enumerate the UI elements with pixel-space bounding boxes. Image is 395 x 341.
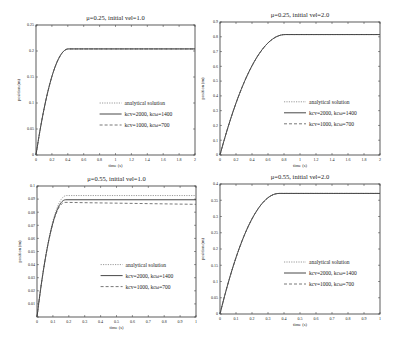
x-tick-label: 1.4 <box>145 157 150 162</box>
y-axis-label: position (m) <box>200 77 205 100</box>
legend-label: kcv=1000, kcω=700 <box>309 121 354 127</box>
series-line <box>220 193 380 314</box>
x-axis-label: time (s) <box>293 163 307 168</box>
x-tick-label: 0.7 <box>330 316 335 321</box>
x-tick-label: 0.2 <box>250 316 255 321</box>
legend-label: analytical solution <box>309 259 350 265</box>
y-tick-label: 0.04 <box>28 262 35 267</box>
legend-label: kcv=1000, kcω=700 <box>125 122 170 128</box>
x-tick-label: 0.5 <box>114 319 119 324</box>
x-tick-label: 0.8 <box>97 157 102 162</box>
y-tick-label: 0.02 <box>28 288 35 293</box>
y-tick-label: 0.05 <box>211 295 218 300</box>
y-tick-label: 0.3 <box>213 108 218 113</box>
y-tick-label: 0.3 <box>213 214 218 219</box>
legend: analytical solutionkcv=2000, kcω=1400kcv… <box>100 100 173 128</box>
series-line <box>220 193 380 314</box>
x-tick-label: 1.2 <box>129 157 134 162</box>
legend: analytical solutionkcv=2000, kcω=1400kcv… <box>284 99 357 127</box>
x-tick-label: 0.1 <box>50 319 55 324</box>
x-tick-label: 0.3 <box>82 319 87 324</box>
plot-frame <box>37 186 196 317</box>
x-tick-label: 0.1 <box>234 316 239 321</box>
x-tick-label: 1 <box>379 316 381 321</box>
x-axis-label: time (s) <box>110 325 124 330</box>
x-tick-label: 0.4 <box>250 157 255 162</box>
x-tick-label: 1.2 <box>314 157 319 162</box>
subplot-4: μ=0.55, initial vel=2.000.10.20.30.40.50… <box>200 173 381 327</box>
legend-label: kcv=2000, kcω=1400 <box>125 111 173 117</box>
y-axis-label: position (m) <box>200 237 205 260</box>
y-tick-label: 0.9 <box>213 19 218 24</box>
x-tick-label: 0.9 <box>362 316 367 321</box>
y-tick-label: 0.6 <box>213 64 218 69</box>
chart-title: μ=0.55, initial vel=2.0 <box>271 173 329 180</box>
legend-label: analytical solution <box>126 262 167 268</box>
y-tick-label: 0.05 <box>27 126 34 131</box>
chart-title: μ=0.25, initial vel=2.0 <box>271 11 329 18</box>
y-tick-label: 0.03 <box>28 275 35 280</box>
x-tick-label: 1.6 <box>161 157 166 162</box>
series-line <box>37 196 196 317</box>
x-tick-label: 0.2 <box>66 319 71 324</box>
series-line <box>220 35 380 155</box>
x-axis-label: time (s) <box>293 322 307 327</box>
x-tick-label: 0 <box>219 316 221 321</box>
y-tick-label: 0.25 <box>211 230 218 235</box>
y-tick-label: 0.05 <box>28 249 35 254</box>
series-line <box>36 49 195 155</box>
x-tick-label: 0.6 <box>130 319 135 324</box>
x-tick-label: 1 <box>299 157 301 162</box>
subplot-3: μ=0.55, initial vel=1.000.10.20.30.40.50… <box>17 175 197 330</box>
legend-label: kcv=1000, kcω=700 <box>126 284 171 290</box>
plot-frame <box>220 22 380 155</box>
y-tick-label: 0.15 <box>27 74 34 79</box>
x-tick-label: 0.8 <box>162 319 167 324</box>
x-tick-label: 0.6 <box>314 316 319 321</box>
x-tick-label: 1.8 <box>362 157 367 162</box>
y-tick-label: 0.07 <box>28 223 35 228</box>
series-line <box>36 49 195 155</box>
legend-label: kcv=1000, kcω=700 <box>309 281 354 287</box>
legend-label: analytical solution <box>125 100 166 106</box>
y-tick-label: 0.01 <box>28 301 35 306</box>
y-tick-label: 0.7 <box>213 49 218 54</box>
series-line <box>220 35 380 155</box>
y-tick-label: 0 <box>216 311 218 316</box>
y-tick-label: 0.2 <box>213 123 218 128</box>
y-tick-label: 0.8 <box>213 34 218 39</box>
legend-label: analytical solution <box>309 99 350 105</box>
legend-label: kcv=2000, kcω=1400 <box>309 270 357 276</box>
subplot-2: μ=0.25, initial vel=2.000.20.40.60.811.2… <box>200 11 381 168</box>
x-tick-label: 0.2 <box>234 157 239 162</box>
y-tick-label: 0.09 <box>28 196 35 201</box>
x-tick-label: 1.6 <box>346 157 351 162</box>
x-tick-label: 0.6 <box>81 157 86 162</box>
series-line <box>220 193 380 314</box>
x-tick-label: 0.6 <box>266 157 271 162</box>
subplot-1: μ=0.25, initial vel=1.000.20.40.60.811.2… <box>16 14 196 168</box>
x-tick-label: 0.5 <box>298 316 303 321</box>
x-tick-label: 0.7 <box>146 319 151 324</box>
y-tick-label: 0.4 <box>213 93 218 98</box>
chart-title: μ=0.25, initial vel=1.0 <box>86 14 144 21</box>
series-line <box>220 35 380 155</box>
x-tick-label: 1.4 <box>330 157 335 162</box>
y-tick-label: 0.4 <box>213 181 218 186</box>
chart-title: μ=0.55, initial vel=1.0 <box>87 175 145 182</box>
x-tick-label: 0.4 <box>98 319 103 324</box>
series-line <box>37 200 196 317</box>
x-axis-label: time (s) <box>109 163 123 168</box>
x-tick-label: 1 <box>195 319 197 324</box>
plot-frame <box>36 25 195 155</box>
y-tick-label: 0.1 <box>29 100 34 105</box>
y-tick-label: 0.25 <box>27 22 34 27</box>
x-tick-label: 1.8 <box>177 157 182 162</box>
x-tick-label: 2 <box>379 157 381 162</box>
y-tick-label: 0.2 <box>213 246 218 251</box>
x-tick-label: 0.9 <box>178 319 183 324</box>
x-tick-label: 0.4 <box>65 157 70 162</box>
y-axis-label: position (m) <box>17 240 22 263</box>
plot-frame <box>220 184 380 314</box>
y-tick-label: 0.15 <box>211 263 218 268</box>
